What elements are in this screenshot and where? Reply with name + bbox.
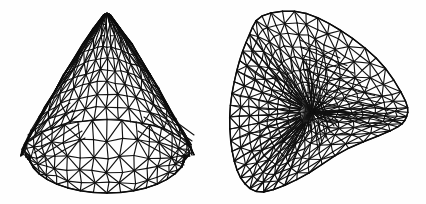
mesh-edge <box>338 122 348 124</box>
mesh-edge <box>302 158 309 160</box>
mesh-edge <box>285 11 295 23</box>
mesh-edge <box>388 124 398 126</box>
mesh-edge <box>272 85 274 90</box>
mesh-edge <box>305 140 311 144</box>
mesh-edge <box>345 47 349 57</box>
mesh-edge <box>382 85 383 97</box>
mesh-edge <box>262 86 263 93</box>
mesh-edge <box>275 48 279 50</box>
mesh-edge <box>249 125 250 133</box>
mesh-edge <box>348 124 354 128</box>
mesh-edge <box>306 18 317 25</box>
mesh-edge <box>354 62 362 71</box>
mesh-edge <box>254 156 257 163</box>
mesh-edge <box>261 139 270 145</box>
mesh-edge <box>331 144 346 145</box>
mesh-edge <box>249 133 259 137</box>
mesh-edge <box>309 153 319 159</box>
mesh-edge <box>383 80 394 84</box>
mesh-edge <box>262 90 271 93</box>
mesh-edge <box>288 163 291 168</box>
wireframe-mesh-right <box>0 0 426 204</box>
mesh-edge <box>383 121 392 122</box>
mesh-edge <box>320 145 331 146</box>
mesh-edge <box>355 70 362 77</box>
mesh-edge <box>250 169 253 176</box>
mesh-edge <box>311 143 320 145</box>
mesh-edge <box>370 74 378 77</box>
mesh-edge <box>299 24 306 35</box>
mesh-edge <box>259 59 262 66</box>
mesh-edge <box>354 56 360 62</box>
mesh-edge <box>252 42 257 52</box>
mesh-edge <box>339 128 345 133</box>
mesh-edge <box>316 62 318 77</box>
mesh-edge <box>264 155 270 160</box>
mesh-edge <box>249 132 260 133</box>
mesh-edge <box>263 28 268 30</box>
mesh-edge <box>258 30 263 37</box>
mesh-edge <box>328 140 332 145</box>
mesh-edge <box>351 135 358 138</box>
mesh-edge <box>264 46 266 52</box>
mesh-edge <box>263 172 264 182</box>
mesh-edge <box>359 119 370 120</box>
mesh-edge <box>280 34 281 48</box>
mesh-edge <box>263 172 268 174</box>
mesh-edge <box>280 33 288 34</box>
mesh-edge <box>246 165 250 170</box>
mesh-edge <box>303 59 310 60</box>
mesh-edge <box>277 108 289 109</box>
mesh-edge <box>354 62 355 78</box>
mesh-edge <box>362 70 370 77</box>
mesh-edge <box>335 47 348 50</box>
mesh-edge <box>376 85 383 87</box>
mesh-edge <box>250 143 252 151</box>
mesh-edge <box>370 58 376 63</box>
mesh-edge <box>308 35 309 49</box>
mesh-edge <box>335 135 341 140</box>
mesh-edge <box>250 116 259 124</box>
mesh-edge <box>267 13 271 28</box>
mesh-edge <box>259 123 267 126</box>
mesh-edge <box>258 115 259 123</box>
mesh-edge <box>331 145 333 152</box>
mesh-edge <box>311 131 312 138</box>
mesh-edge <box>338 31 340 39</box>
mesh-edge <box>253 176 258 181</box>
mesh-edge <box>240 137 241 148</box>
mesh-edge <box>362 63 370 70</box>
mesh-edge <box>266 42 270 46</box>
mesh-edge <box>319 145 331 154</box>
mesh-edge <box>267 119 276 120</box>
mesh-edge <box>291 168 297 173</box>
mesh-edge <box>244 86 249 97</box>
figure-canvas <box>0 0 426 204</box>
mesh-edge <box>382 95 392 97</box>
mesh-edge <box>319 139 320 145</box>
mesh-edge <box>257 163 260 168</box>
mesh-edge <box>383 69 385 85</box>
mesh-edge <box>230 117 240 128</box>
mesh-edge <box>277 104 278 109</box>
mesh-edge <box>260 168 263 173</box>
mesh-edge <box>265 68 268 73</box>
mesh-edge <box>275 174 278 181</box>
mesh-edge <box>346 144 349 148</box>
mesh-edge <box>280 24 284 35</box>
mesh-edge <box>284 46 291 58</box>
mesh-edge <box>372 126 381 128</box>
mesh-edge <box>240 128 250 133</box>
mesh-edge <box>291 47 293 58</box>
mesh-edge <box>309 39 315 49</box>
mesh-edge <box>297 152 302 158</box>
mesh-edge <box>328 24 330 34</box>
mesh-edge <box>247 59 251 66</box>
mesh-edge <box>335 39 338 49</box>
mesh-edge <box>339 65 340 79</box>
mesh-edge <box>359 137 364 141</box>
mesh-edge <box>269 115 276 119</box>
mesh-edge <box>371 133 378 136</box>
mesh-edge <box>284 58 291 61</box>
mesh-edge <box>251 51 252 59</box>
